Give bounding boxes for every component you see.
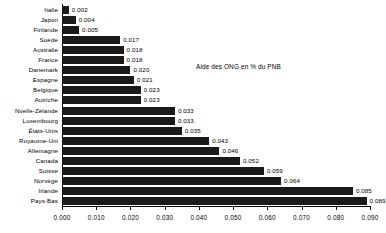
bar: [62, 56, 124, 64]
plot-area: Italie0.002Japon0.004Finlande0.005Suède0…: [62, 4, 370, 205]
bar-value-label: 0.002: [72, 5, 88, 14]
x-tick: [165, 206, 166, 210]
bar: [62, 177, 281, 185]
category-label: Nvelle-Zélande: [15, 106, 58, 115]
x-tick-label: 0.030: [156, 213, 173, 222]
bar: [62, 197, 367, 205]
bar-row: Danemark0.020: [62, 66, 370, 74]
x-tick: [267, 206, 268, 210]
bar-value-label: 0.035: [185, 126, 201, 135]
x-tick-label: 0.090: [362, 213, 379, 222]
category-label: France: [38, 55, 58, 64]
category-label: Autriche: [35, 95, 59, 104]
category-label: Belgique: [33, 85, 58, 94]
bar: [62, 157, 240, 165]
bar: [62, 147, 219, 155]
bar-row: Royaume-Uni0.043: [62, 137, 370, 145]
x-tick: [336, 206, 337, 210]
bar-row: Finlande0.005: [62, 26, 370, 34]
x-tick-label: 0.060: [259, 213, 276, 222]
category-label: Royaume-Uni: [19, 136, 58, 145]
bar-value-label: 0.005: [82, 25, 98, 34]
category-label: Japon: [41, 15, 58, 24]
category-label: Suisse: [39, 166, 58, 175]
x-tick-label: 0.080: [327, 213, 344, 222]
bar-row: France0.018: [62, 56, 370, 64]
bar-value-label: 0.052: [243, 156, 259, 165]
bar-row: Belgique0.023: [62, 86, 370, 94]
x-tick-label: 0.040: [190, 213, 207, 222]
bar-row: Allemagne0.046: [62, 147, 370, 155]
x-tick: [199, 206, 200, 210]
x-tick-label: 0.020: [122, 213, 139, 222]
bar-row: Autriche0.023: [62, 96, 370, 104]
bar-row: Italie0.002: [62, 6, 370, 14]
bar-value-label: 0.021: [137, 75, 153, 84]
x-tick: [370, 206, 371, 210]
category-label: Canada: [36, 156, 58, 165]
bar: [62, 167, 264, 175]
category-label: Australie: [33, 45, 58, 54]
bar-row: Australie0.018: [62, 46, 370, 54]
bar-value-label: 0.059: [267, 166, 283, 175]
bar-value-label: 0.046: [222, 146, 238, 155]
bar-value-label: 0.089: [370, 196, 386, 205]
bar: [62, 137, 209, 145]
bar: [62, 76, 134, 84]
bar-value-label: 0.064: [284, 176, 300, 185]
bar-row: Irlande0.085: [62, 187, 370, 195]
bar-value-label: 0.043: [212, 136, 228, 145]
bar-row: Nvelle-Zélande0.033: [62, 107, 370, 115]
bar: [62, 117, 175, 125]
category-label: Espagne: [33, 75, 58, 84]
x-tick: [62, 206, 63, 210]
category-label: Allemagne: [28, 146, 58, 155]
x-tick-label: 0.050: [225, 213, 242, 222]
bar-row: États-Unis0.035: [62, 127, 370, 135]
x-tick: [302, 206, 303, 210]
bar: [62, 96, 141, 104]
bar-rows: Italie0.002Japon0.004Finlande0.005Suède0…: [62, 4, 370, 205]
bar-value-label: 0.085: [356, 186, 372, 195]
x-tick: [130, 206, 131, 210]
bar-row: Pays-Bas0.089: [62, 197, 370, 205]
category-label: Irlande: [38, 186, 58, 195]
category-label: Danemark: [29, 65, 58, 74]
category-label: Finlande: [33, 25, 58, 34]
bar-row: Japon0.004: [62, 16, 370, 24]
x-tick: [233, 206, 234, 210]
bar: [62, 86, 141, 94]
bar-value-label: 0.004: [79, 15, 95, 24]
x-tick-label: 0.000: [54, 213, 71, 222]
bar-row: Luxembourg0.033: [62, 117, 370, 125]
bar: [62, 6, 69, 14]
bar-row: Espagne0.021: [62, 76, 370, 84]
x-tick-label: 0.010: [88, 213, 105, 222]
category-label: Italie: [44, 5, 58, 14]
bar-value-label: 0.033: [178, 116, 194, 125]
bar-value-label: 0.018: [127, 55, 143, 64]
bar-row: Suisse0.059: [62, 167, 370, 175]
bar-value-label: 0.033: [178, 106, 194, 115]
category-label: Luxembourg: [23, 116, 58, 125]
bar: [62, 26, 79, 34]
bar-value-label: 0.020: [133, 65, 149, 74]
category-label: Pays-Bas: [31, 196, 58, 205]
bar-row: Norvège0.064: [62, 177, 370, 185]
bar-row: Suède0.017: [62, 36, 370, 44]
category-label: Suède: [40, 35, 58, 44]
bar-value-label: 0.017: [123, 35, 139, 44]
bar-value-label: 0.018: [127, 45, 143, 54]
bar: [62, 16, 76, 24]
bar: [62, 127, 182, 135]
bar: [62, 66, 130, 74]
bar: [62, 187, 353, 195]
category-label: Norvège: [34, 176, 58, 185]
x-tick-label: 0.070: [293, 213, 310, 222]
bar: [62, 107, 175, 115]
bar: [62, 46, 124, 54]
bar-value-label: 0.023: [144, 85, 160, 94]
x-tick: [96, 206, 97, 210]
bar-value-label: 0.023: [144, 95, 160, 104]
